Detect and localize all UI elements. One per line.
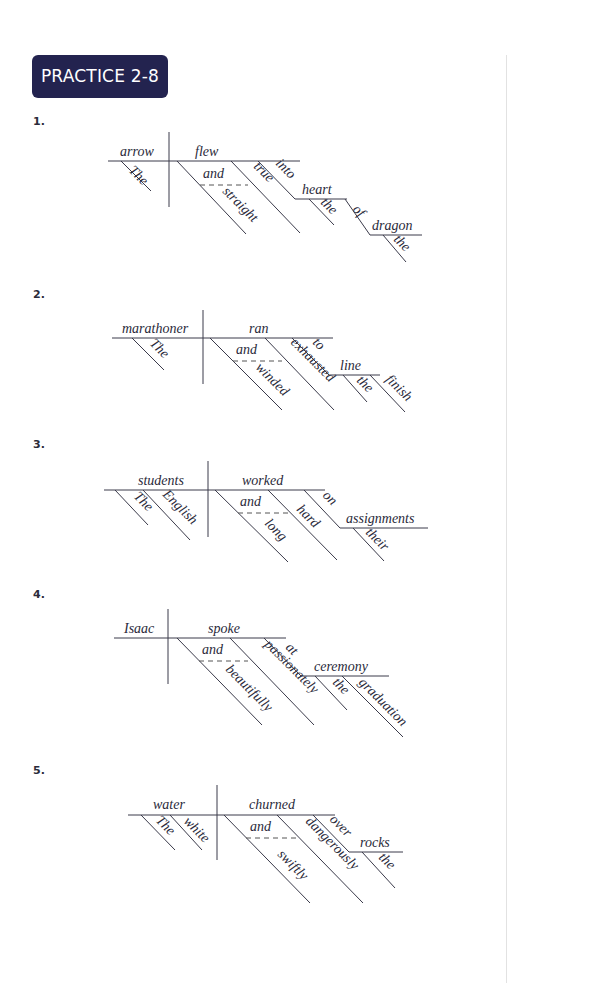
adverb-1: swiftly	[275, 847, 312, 884]
sentence-diagram-5: water The white churned and swiftly dang…	[0, 0, 614, 983]
subject: water	[153, 797, 185, 812]
conjunction: and	[250, 819, 272, 834]
object: rocks	[360, 835, 390, 850]
object-modifier: the	[376, 850, 399, 873]
subject-modifier: The	[153, 813, 178, 838]
verb: churned	[249, 797, 296, 812]
subject-modifier-2: white	[181, 814, 213, 846]
